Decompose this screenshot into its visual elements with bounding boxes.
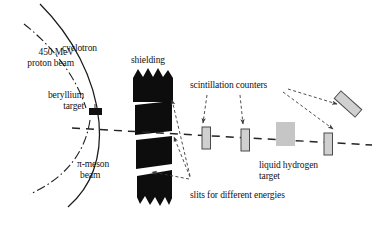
label-pi-meson-line1: π-meson [77, 159, 109, 170]
liquid-hydrogen-target [276, 122, 295, 146]
proton-beam-path-lower [30, 120, 90, 194]
label-liquid-hydrogen-line1: liquid hydrogen [259, 160, 318, 171]
shielding-column [133, 60, 173, 212]
counter-3 [324, 133, 333, 155]
leader-counter-1 [203, 95, 207, 123]
shielding-block-1 [133, 60, 173, 106]
leader-counter-tilted [288, 89, 337, 104]
beryllium-target [89, 108, 102, 115]
counter-tilted [334, 91, 361, 117]
leader-slit-upper [172, 100, 190, 176]
label-shielding: shielding [131, 55, 165, 66]
counter-1 [202, 127, 211, 149]
counter-2 [241, 129, 250, 151]
label-slits: slits for different energies [190, 190, 285, 201]
shielding-block-4 [137, 170, 172, 212]
label-proton-beam-line1: 450 MeV [0, 47, 74, 58]
label-liquid-hydrogen-line2: target [259, 171, 280, 182]
shielding-block-2 [135, 101, 172, 135]
shielding-block-3 [136, 136, 172, 169]
label-proton-beam-line2: proton beam [0, 58, 74, 69]
label-beryllium-line2: target [0, 101, 84, 112]
label-scintillation-counters: scintillation counters [190, 80, 267, 91]
leader-counter-2 [240, 95, 243, 124]
physics-experiment-diagram: cyclotron 450 MeV proton beam beryllium … [0, 0, 380, 231]
label-beryllium-line1: beryllium [0, 90, 84, 101]
label-pi-meson-line2: beam [80, 170, 100, 181]
